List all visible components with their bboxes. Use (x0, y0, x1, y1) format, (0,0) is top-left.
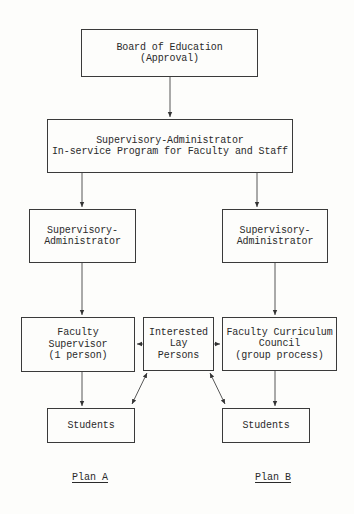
faculty-supervisor-label: Faculty Supervisor (1 person) (48, 327, 107, 362)
double-arrow-lay-to-students-b (210, 373, 225, 404)
curriculum-council-label: Faculty Curriculum Council (group proces… (226, 327, 332, 362)
sup-admin-a-label: Supervisory- Administrator (44, 225, 121, 248)
students-b-box: Students (222, 408, 310, 443)
plan-a-caption: Plan A (72, 472, 108, 483)
double-arrow-lay-to-students-a (132, 373, 147, 404)
sup-admin-b-label: Supervisory- Administrator (237, 225, 314, 248)
students-a-box: Students (47, 408, 135, 443)
faculty-supervisor-box: Faculty Supervisor (1 person) (21, 317, 135, 372)
board-of-education-box: Board of Education (Approval) (81, 29, 258, 77)
lay-persons-label: Interested Lay Persons (149, 327, 208, 362)
students-b-label: Students (242, 420, 289, 432)
inservice-program-box: Supervisory-Administrator In-service Pro… (47, 119, 293, 173)
inservice-program-label: Supervisory-Administrator In-service Pro… (52, 135, 288, 158)
curriculum-council-box: Faculty Curriculum Council (group proces… (222, 317, 337, 371)
board-of-education-label: Board of Education (Approval) (116, 42, 222, 65)
lay-persons-box: Interested Lay Persons (143, 317, 214, 371)
plan-b-caption: Plan B (255, 472, 291, 483)
students-a-label: Students (67, 420, 114, 432)
sup-admin-b-box: Supervisory- Administrator (222, 209, 328, 263)
sup-admin-a-box: Supervisory- Administrator (29, 209, 136, 263)
